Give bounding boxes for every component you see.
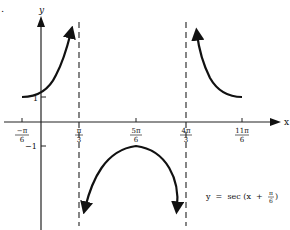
tick-label-5pi-6: 5π 6 xyxy=(130,127,142,144)
x-axis-label: x xyxy=(284,117,289,127)
svg-text:6: 6 xyxy=(269,197,273,204)
x-axis-arrow-icon xyxy=(270,118,281,126)
svg-text:): ) xyxy=(275,192,278,201)
x-tick-labels: −π 6 π 3 5π 6 4π 3 11π 6 xyxy=(15,127,249,144)
equation-label: y = sec (x + π 6 ) xyxy=(205,189,278,204)
y-axis-arrow-icon xyxy=(37,16,45,27)
svg-text:π: π xyxy=(269,189,273,196)
svg-text:5π: 5π xyxy=(131,127,140,135)
y-axis-label: y xyxy=(38,5,45,15)
svg-text:y = sec (x +: y = sec (x + xyxy=(205,192,268,201)
x-axis: x xyxy=(4,117,289,127)
branch-left-upper xyxy=(22,32,71,97)
secant-graph: . x y −π 6 π 3 5π 6 4π xyxy=(0,0,290,230)
svg-text:−π: −π xyxy=(17,127,28,135)
tick-label-11pi-6: 11π 6 xyxy=(235,127,249,144)
y-axis: y xyxy=(37,5,45,230)
branch-middle-lower xyxy=(85,146,177,208)
corner-mark: . xyxy=(1,3,4,14)
y-tick-neg-1: −1 xyxy=(25,142,37,151)
svg-text:6: 6 xyxy=(240,136,245,144)
asymptotes xyxy=(79,22,186,226)
svg-text:6: 6 xyxy=(134,136,139,144)
svg-text:11π: 11π xyxy=(235,127,249,135)
branch-right-upper xyxy=(197,34,242,97)
curve-branches xyxy=(22,32,242,208)
